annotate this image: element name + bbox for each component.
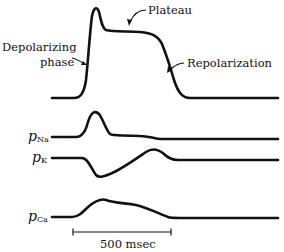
scale-bar — [73, 229, 171, 236]
plateau-label: Plateau — [148, 3, 192, 17]
pNa-trace — [52, 112, 278, 139]
pK-trace — [52, 150, 278, 177]
pCa-label: pCa — [28, 208, 48, 224]
pK-label: pK — [32, 149, 48, 165]
scale-bar-label: 500 msec — [100, 237, 156, 251]
pCa-trace — [52, 199, 278, 218]
action-potential-trace — [52, 8, 278, 98]
repolarization-label: Repolarization — [187, 56, 273, 70]
depolarizing-label-line1: Depolarizing — [2, 40, 77, 54]
repolarization-arrow-icon — [170, 63, 184, 70]
plateau-arrow-icon — [130, 10, 146, 22]
plateau-arrowhead-icon — [127, 19, 132, 26]
pNa-label: pNa — [28, 128, 49, 144]
depolarizing-label-line2: phase — [40, 55, 75, 69]
action-potential-diagram: Depolarizing phase Plateau Repolarizatio… — [0, 0, 284, 252]
